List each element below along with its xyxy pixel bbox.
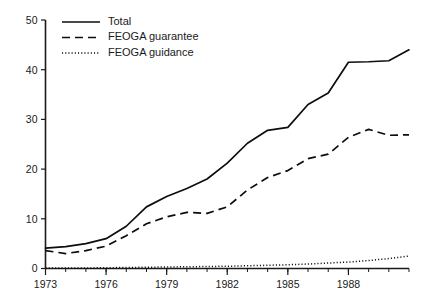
y-tick-label: 30: [26, 113, 38, 125]
x-tick-label: 1973: [34, 278, 58, 290]
y-tick-label: 0: [32, 262, 38, 274]
y-tick-label: 20: [26, 163, 38, 175]
y-axis-tick-labels: 01020304050: [26, 14, 38, 275]
legend-label: Total: [108, 15, 131, 27]
line-chart: 01020304050 197319761979198219851988 Tot…: [0, 0, 421, 304]
x-tick-label: 1985: [276, 278, 300, 290]
legend-label: FEOGA guidance: [108, 46, 194, 58]
chart-legend: TotalFEOGA guaranteeFEOGA guidance: [62, 15, 199, 58]
series-line-feoga-guidance: [46, 256, 410, 268]
x-tick-label: 1976: [94, 278, 118, 290]
y-tick-label: 40: [26, 64, 38, 76]
y-axis: 01020304050: [26, 14, 46, 275]
series-line-total: [46, 50, 410, 248]
x-axis-major-ticks: [46, 269, 349, 276]
x-tick-label: 1979: [155, 278, 179, 290]
legend-label: FEOGA guarantee: [108, 30, 199, 42]
y-tick-label: 50: [26, 14, 38, 26]
y-tick-label: 10: [26, 213, 38, 225]
x-tick-label: 1988: [337, 278, 361, 290]
x-axis-tick-labels: 197319761979198219851988: [34, 278, 360, 290]
data-series-group: [46, 50, 410, 268]
x-axis: 197319761979198219851988: [34, 269, 409, 290]
chart-page: 01020304050 197319761979198219851988 Tot…: [0, 0, 421, 304]
x-tick-label: 1982: [216, 278, 240, 290]
series-line-feoga-guarantee: [46, 129, 410, 253]
